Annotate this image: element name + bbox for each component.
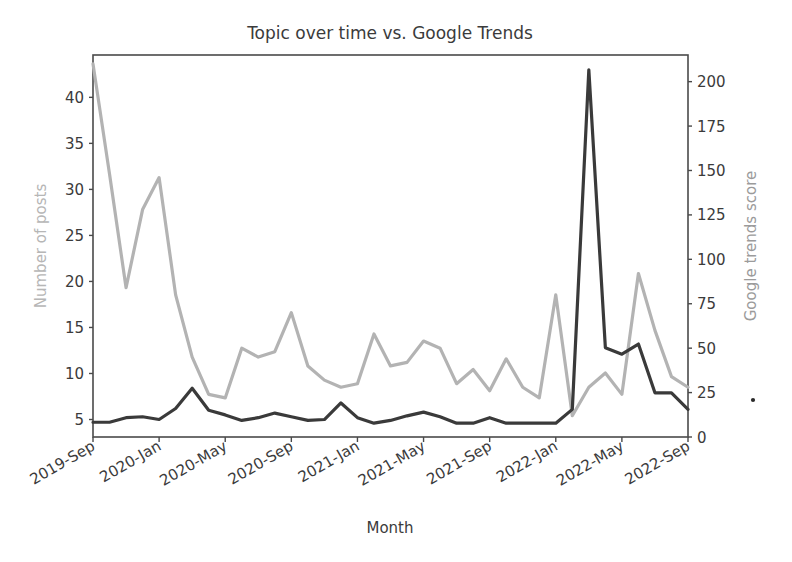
- series-line-number-of-posts: [93, 70, 688, 423]
- y2-tick-label: 200: [697, 73, 726, 91]
- chart-title: Topic over time vs. Google Trends: [246, 23, 533, 43]
- y-tick-label: 25: [65, 227, 84, 245]
- x-tick-label: 2020-Sep: [225, 437, 296, 489]
- y-tick-label: 15: [65, 319, 84, 337]
- y2-tick-label: 150: [697, 162, 726, 180]
- x-axis-ticks: 2019-Sep2020-Jan2020-May2020-Sep2021-Jan…: [27, 437, 693, 490]
- y-tick-label: 30: [65, 181, 84, 199]
- y-axis-ticks: 510152025303540: [65, 89, 93, 429]
- artifact-speck: [751, 398, 755, 402]
- x-tick-label: 2021-Sep: [423, 437, 494, 489]
- x-tick-label: 2022-Jan: [493, 437, 560, 486]
- y2-tick-label: 100: [697, 251, 726, 269]
- y2-tick-label: 25: [697, 384, 716, 402]
- y2-tick-label: 75: [697, 295, 716, 313]
- x-tick-label: 2020-Jan: [97, 437, 164, 486]
- y2-tick-label: 175: [697, 118, 726, 136]
- x-tick-label: 2021-May: [355, 437, 429, 490]
- y2-tick-label: 125: [697, 206, 726, 224]
- x-tick-label: 2019-Sep: [27, 437, 98, 489]
- x-tick-label: 2020-May: [157, 437, 231, 490]
- y-tick-label: 10: [65, 365, 84, 383]
- y2-axis-ticks: 0255075100125150175200: [688, 73, 726, 446]
- y-tick-label: 40: [65, 89, 84, 107]
- series-lines: [93, 64, 688, 423]
- x-tick-label: 2021-Jan: [295, 437, 362, 486]
- x-tick-label: 2022-May: [553, 437, 627, 490]
- y2-tick-label: 50: [697, 340, 716, 358]
- x-axis-label: Month: [366, 519, 413, 537]
- y2-tick-label: 0: [697, 429, 707, 447]
- y2-axis-label: Google trends score: [742, 171, 760, 322]
- y-tick-label: 35: [65, 135, 84, 153]
- x-tick-label: 2022-Sep: [622, 437, 693, 489]
- chart-figure: Topic over time vs. Google Trends 510152…: [0, 0, 792, 562]
- y-tick-label: 5: [74, 411, 84, 429]
- y-axis-label: Number of posts: [32, 184, 50, 309]
- y-tick-label: 20: [65, 273, 84, 291]
- chart-canvas: Topic over time vs. Google Trends 510152…: [0, 0, 792, 562]
